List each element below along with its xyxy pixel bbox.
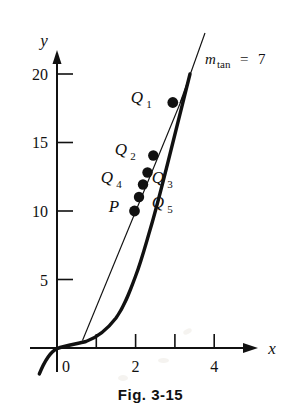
point-label-Q1: Q 1 xyxy=(131,88,152,110)
point-label-Q1-text: Q xyxy=(131,88,143,107)
slope-value: 7 xyxy=(258,51,266,67)
slope-annotation: m tan = 7 xyxy=(205,51,266,70)
point-Q2 xyxy=(148,150,158,160)
y-tick-label-5: 5 xyxy=(40,272,48,289)
point-label-Q3-text: Q xyxy=(152,168,164,187)
slope-symbol: m xyxy=(205,51,216,67)
y-axis-label: y xyxy=(38,31,48,50)
slope-equals: = xyxy=(240,51,248,67)
point-label-Q3: Q 3 xyxy=(152,168,173,190)
point-Q5 xyxy=(134,192,144,202)
graph-svg: 20 15 10 5 0 2 4 y x Q 1 Q 2 Q xyxy=(0,0,301,414)
x-tick-label-0: 0 xyxy=(62,358,70,375)
point-label-Q3-sub: 3 xyxy=(167,178,173,190)
x-axis-label: x xyxy=(267,339,276,358)
y-tick-label-20: 20 xyxy=(32,66,48,83)
point-Q4 xyxy=(138,179,148,189)
y-tick-label-15: 15 xyxy=(32,134,48,151)
point-label-Q2: Q 2 xyxy=(115,140,136,162)
point-label-Q2-sub: 2 xyxy=(130,150,136,162)
paper-smudge-2 xyxy=(158,358,169,363)
point-label-Q5-text: Q xyxy=(152,193,164,212)
point-label-Q4-text: Q xyxy=(101,168,113,187)
point-label-Q2-text: Q xyxy=(115,140,127,159)
point-label-P-text: P xyxy=(108,197,119,216)
point-label-Q5: Q 5 xyxy=(152,193,173,215)
point-label-Q1-sub: 1 xyxy=(146,98,152,110)
figure-container: 20 15 10 5 0 2 4 y x Q 1 Q 2 Q xyxy=(0,0,301,414)
point-label-Q5-sub: 5 xyxy=(167,203,173,215)
point-Q1 xyxy=(167,97,178,108)
point-label-Q4: Q 4 xyxy=(101,168,122,190)
x-tick-label-2: 2 xyxy=(132,358,140,375)
y-tick-label-10: 10 xyxy=(32,203,48,220)
cubic-curve xyxy=(39,74,190,374)
y-axis-arrowhead xyxy=(53,50,62,64)
figure-caption: Fig. 3-15 xyxy=(0,386,301,403)
paper-smudge-3 xyxy=(118,375,128,381)
x-tick-label-4: 4 xyxy=(210,358,218,375)
point-label-P: P xyxy=(108,197,119,216)
axes-group xyxy=(30,50,258,372)
point-label-Q4-sub: 4 xyxy=(116,178,122,190)
x-axis-arrowhead xyxy=(243,343,258,353)
point-P xyxy=(129,206,140,217)
slope-subscript: tan xyxy=(217,58,231,70)
